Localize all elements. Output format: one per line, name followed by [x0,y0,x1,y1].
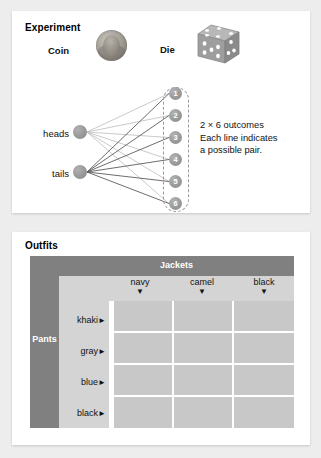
outcome-link-lines [12,11,310,213]
table-cell[interactable] [114,397,172,428]
row-header-black[interactable]: black► [59,408,109,418]
row-header-khaki[interactable]: khaki► [59,315,109,325]
coin-outcome-label-tails: tails [28,168,69,179]
column-header-camel[interactable]: camel [171,277,233,287]
coin-outcome-label-heads: heads [28,128,69,139]
row-header-blue[interactable]: blue► [59,377,109,387]
die-label: Die [160,44,175,55]
row-arrow-gray-icon: ► [98,347,106,356]
table-cell[interactable] [234,397,294,428]
page-background: Experiment Coin Die [0,0,321,458]
die-outcome-node-4[interactable]: 4 [169,153,182,166]
row-header-gray-label: gray [81,346,99,356]
row-arrow-blue-icon: ► [98,378,106,387]
coin-outcome-node-heads[interactable] [73,125,87,139]
column-header-navy[interactable]: navy [109,277,171,287]
table-cell[interactable] [234,301,294,331]
row-arrow-khaki-icon: ► [98,316,106,325]
die-outcome-node-1[interactable]: 1 [169,87,182,100]
pants-group-label: Pants [30,334,59,344]
outfits-panel-title: Outfits [25,240,58,251]
jackets-group-label: Jackets [59,260,294,270]
table-cell[interactable] [234,365,294,395]
die-outcome-node-6[interactable]: 6 [169,197,182,210]
die-outcomes-group-outline [163,87,189,212]
table-cell[interactable] [174,301,232,331]
table-cell[interactable] [114,333,172,363]
outfits-matrix-table: Pants Jackets navy ▼ camel ▼ black ▼ kha… [30,256,294,428]
row-arrow-black-icon: ► [98,409,106,418]
table-cell[interactable] [174,397,232,428]
die-outcome-node-2[interactable]: 2 [169,109,182,122]
six-sided-die-icon [195,23,241,67]
column-arrow-navy-icon: ▼ [109,288,171,296]
table-cell[interactable] [174,365,232,395]
experiment-panel: Experiment Coin Die [12,11,310,213]
experiment-panel-title: Experiment [25,22,80,33]
table-cell[interactable] [174,333,232,363]
row-header-black-label: black [77,408,98,418]
row-header-khaki-label: khaki [77,315,98,325]
row-header-gray[interactable]: gray► [59,346,109,356]
outfits-panel: Outfits Pants Jackets navy ▼ camel ▼ bla… [12,232,310,445]
die-outcome-node-5[interactable]: 5 [169,175,182,188]
column-arrow-black-icon: ▼ [233,288,295,296]
column-header-black[interactable]: black [233,277,295,287]
table-cell[interactable] [114,365,172,395]
die-outcome-node-3[interactable]: 3 [169,131,182,144]
penny-coin-icon [96,30,127,61]
table-cell[interactable] [114,301,172,331]
coin-label: Coin [48,45,69,56]
row-header-blue-label: blue [81,377,98,387]
outcome-note-text: 2 × 6 outcomes Each line indicates a pos… [200,119,278,157]
coin-outcome-node-tails[interactable] [73,165,87,179]
column-arrow-camel-icon: ▼ [171,288,233,296]
table-cell[interactable] [234,333,294,363]
